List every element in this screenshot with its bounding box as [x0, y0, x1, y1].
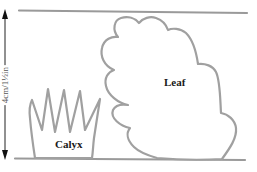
measurement-label: 4cm/1½in	[0, 65, 10, 105]
diagram-canvas	[0, 0, 257, 172]
leaf-outline	[102, 17, 237, 159]
leaf-label: Leaf	[164, 76, 185, 88]
arrow-up-icon	[2, 9, 8, 19]
top-guide-line	[19, 11, 247, 14]
arrow-down-icon	[2, 150, 8, 160]
size-guide-diagram: Leaf Calyx 4cm/1½in	[0, 0, 257, 172]
calyx-label: Calyx	[55, 138, 83, 150]
